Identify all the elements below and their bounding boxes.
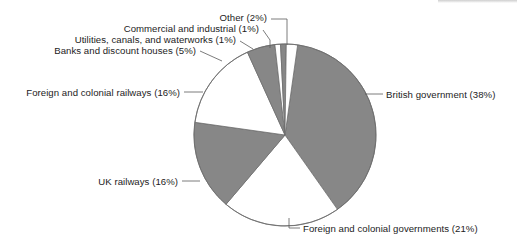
pie-label-other: Other (2%): [220, 12, 267, 23]
leader-line-other: [271, 19, 287, 45]
pie-label-commercial-and-industrial: Commercial and industrial (1%): [124, 23, 259, 34]
pie-chart-figure: British government (38%) Foreign and col…: [0, 0, 517, 249]
leader-line-banks-and-discount-houses: [200, 51, 222, 61]
pie-label-utilities-canals-waterworks: Utilities, canals, and waterworks (1%): [75, 34, 236, 45]
pie-label-uk-railways: UK railways (16%): [98, 176, 178, 187]
pie-label-banks-and-discount-houses: Banks and discount houses (5%): [54, 45, 196, 56]
leader-line-utilities-canals-waterworks: [240, 41, 253, 49]
pie-slices: [194, 44, 376, 226]
pie-label-foreign-colonial-railways: Foreign and colonial railways (16%): [26, 87, 180, 98]
pie-label-foreign-colonial-governments: Foreign and colonial governments (21%): [303, 223, 478, 234]
pie-label-british-government: British government (38%): [386, 89, 495, 100]
